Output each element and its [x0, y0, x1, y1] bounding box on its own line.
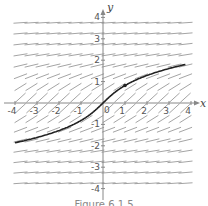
slope-mark [102, 74, 115, 79]
slope-mark [169, 115, 181, 122]
slope-mark [81, 93, 91, 102]
slope-mark [179, 127, 192, 132]
slope-mark [147, 93, 157, 102]
slope-mark [169, 93, 179, 102]
x-tick-label: -3 [30, 106, 39, 116]
y-tick-label: -4 [91, 184, 100, 194]
slope-mark [92, 93, 102, 102]
x-tick-label: 3 [163, 106, 169, 116]
slope-mark [81, 104, 91, 113]
slope-mark [136, 83, 148, 90]
slope-field-chart: x y 0 -4-3-2-11234 -4-3-2-11234 [0, 0, 208, 206]
x-tick-label: -2 [52, 106, 61, 116]
slope-mark [59, 83, 71, 90]
x-tick-label: 2 [141, 106, 147, 116]
slope-mark [158, 115, 170, 122]
slope-mark [25, 127, 38, 132]
slope-mark [157, 127, 170, 132]
slope-mark [135, 127, 148, 132]
slope-mark [125, 104, 135, 113]
slope-mark [158, 93, 168, 102]
slope-mark [37, 104, 47, 113]
slope-mark [124, 74, 137, 79]
slope-mark [14, 127, 27, 132]
slope-mark [114, 115, 126, 122]
slope-mark [114, 93, 124, 102]
slope-mark [147, 115, 159, 122]
slope-mark [48, 115, 60, 122]
slope-mark [36, 127, 49, 132]
slope-mark [37, 93, 47, 102]
slope-mark [80, 74, 93, 79]
y-tick-label: 1 [94, 77, 100, 87]
x-tick-label: 1 [119, 106, 125, 116]
slope-mark [125, 115, 137, 122]
y-tick-label: 3 [94, 34, 100, 44]
figure-caption: Figure 6.1.5 [0, 199, 208, 206]
slope-mark [15, 93, 25, 102]
slope-mark [157, 74, 170, 79]
slope-mark [36, 74, 49, 79]
slope-mark [37, 83, 49, 90]
slope-mark [81, 83, 93, 90]
slope-mark [15, 104, 25, 113]
x-tick-label: -1 [74, 106, 83, 116]
slope-mark [113, 74, 126, 79]
slope-mark [146, 127, 159, 132]
y-axis-arrow-icon [101, 9, 106, 15]
x-tick-label: -4 [8, 106, 17, 116]
slope-mark [58, 74, 71, 79]
slope-mark [168, 127, 181, 132]
slope-mark [15, 83, 27, 90]
slope-mark [37, 115, 49, 122]
y-tick-label: -3 [91, 162, 100, 172]
slope-mark [102, 127, 115, 132]
slope-mark [69, 127, 82, 132]
slope-mark [168, 74, 181, 79]
y-tick-label: 4 [94, 12, 100, 22]
slope-mark [125, 93, 135, 102]
x-tick-label: 4 [185, 106, 191, 116]
slope-mark [169, 104, 179, 113]
slope-mark [103, 83, 115, 90]
slope-mark [26, 83, 38, 90]
slope-mark [48, 93, 58, 102]
slope-mark [70, 93, 80, 102]
slope-mark [59, 115, 71, 122]
slope-mark [113, 127, 126, 132]
slope-mark [180, 83, 192, 90]
slope-mark [136, 115, 148, 122]
slope-mark [180, 115, 192, 122]
y-axis-label: y [106, 1, 114, 14]
y-tick-label: -1 [91, 119, 100, 129]
slope-mark [15, 115, 27, 122]
slope-mark [48, 83, 60, 90]
slope-mark [47, 74, 60, 79]
slope-mark [158, 83, 170, 90]
x-axis-label: x [200, 97, 207, 110]
origin-label: 0 [104, 105, 110, 115]
slope-mark [136, 93, 146, 102]
y-tick-label: 2 [94, 55, 100, 65]
slope-mark [26, 115, 38, 122]
marked-point [123, 84, 127, 88]
slope-mark [59, 93, 69, 102]
slope-mark [70, 83, 82, 90]
slope-mark [103, 115, 115, 122]
slope-mark [59, 104, 69, 113]
slope-mark [147, 83, 159, 90]
slope-mark [169, 83, 181, 90]
slope-mark [26, 93, 36, 102]
slope-mark [147, 104, 157, 113]
slope-mark [179, 74, 192, 79]
slope-mark [14, 74, 27, 79]
slope-mark [69, 74, 82, 79]
slope-mark [124, 127, 137, 132]
y-tick-label: -2 [91, 141, 100, 151]
slope-mark [180, 93, 190, 102]
slope-mark [25, 74, 38, 79]
